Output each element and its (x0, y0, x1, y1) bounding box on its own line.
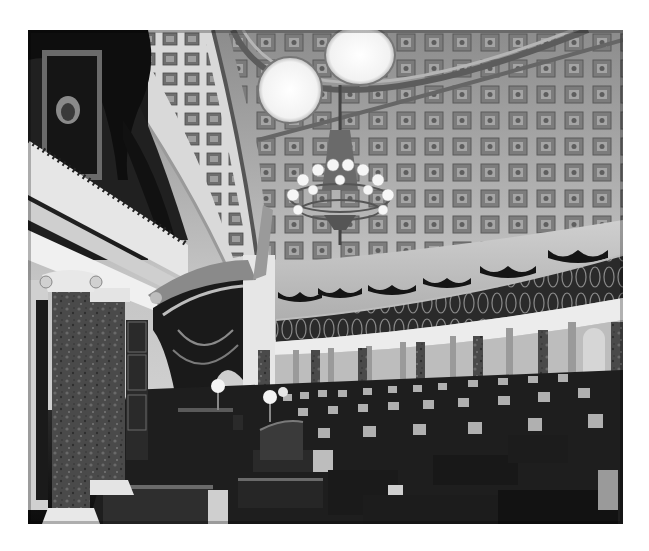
oculus-skylight (258, 57, 322, 123)
oculus-skylight (325, 30, 395, 85)
chamber-photograph: Black-and-white photograph of a historic… (28, 30, 623, 524)
